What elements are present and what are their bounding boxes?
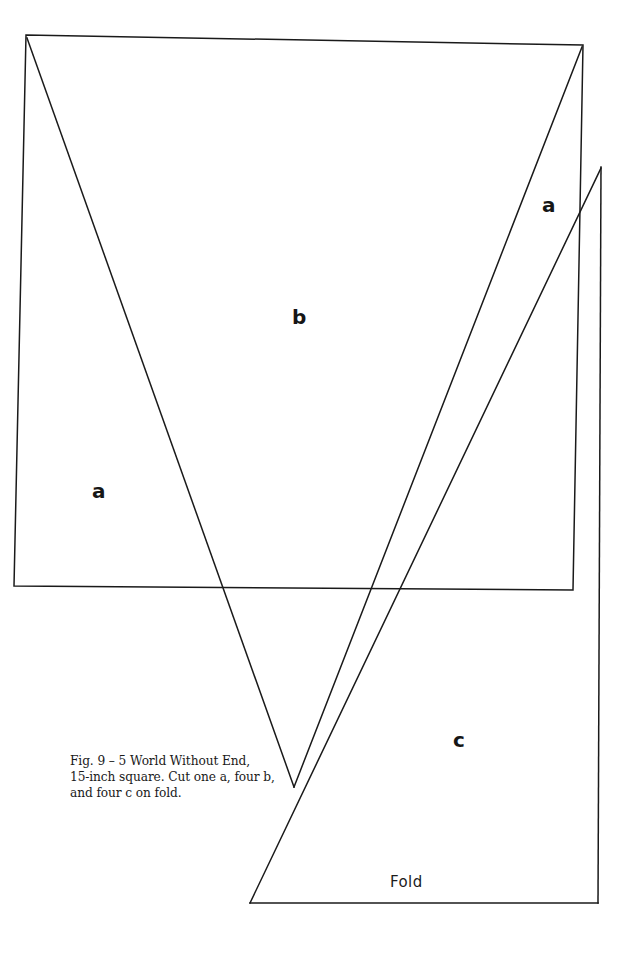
right-panel-edge	[598, 167, 601, 903]
piece-label-a-left: a	[92, 481, 106, 501]
figure-caption: Fig. 9 – 5 World Without End, 15-inch sq…	[70, 753, 320, 801]
diagonal-right	[294, 47, 582, 787]
fold-label: Fold	[390, 875, 423, 890]
piece-label-c: c	[453, 730, 465, 750]
piece-label-a-right: a	[542, 195, 556, 215]
caption-line-3: and four c on fold.	[70, 785, 320, 801]
caption-line-2: 15-inch square. Cut one a, four b,	[70, 769, 320, 785]
diagonal-left	[27, 38, 294, 787]
piece-label-b: b	[292, 307, 307, 327]
caption-line-1: Fig. 9 – 5 World Without End,	[70, 753, 320, 769]
pattern-drawing	[0, 0, 632, 954]
quilt-pattern-figure: b a a c Fold Fig. 9 – 5 World Without En…	[0, 0, 632, 954]
